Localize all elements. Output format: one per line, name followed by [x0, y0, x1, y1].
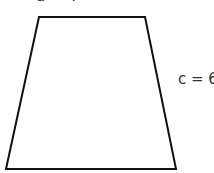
top-side-label: a = 4 — [36, 0, 77, 5]
side-c-label: c = 6 — [178, 70, 214, 88]
trapezoid-shape — [6, 17, 176, 169]
